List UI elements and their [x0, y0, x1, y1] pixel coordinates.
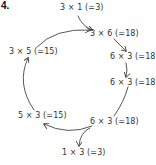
- arrow-lower-right-to-lower-left: [44, 124, 92, 131]
- arrow-right-1-to-right-2: [126, 63, 127, 77]
- node-lower-left: 5 × 3 (=15): [18, 111, 67, 120]
- arrow-right-2-to-lower-right: [114, 87, 128, 116]
- arrow-top-to-upper-right: [78, 16, 92, 30]
- node-top: 3 × 1 (=3): [60, 3, 104, 12]
- node-right-1: 6 × 3 (=18): [110, 52, 156, 61]
- node-bottom: 1 × 3 (=3): [62, 148, 106, 157]
- arrow-upper-right-to-right-1: [114, 39, 126, 51]
- node-right-2: 6 × 3 (=18): [110, 78, 156, 87]
- arrow-upper-left-to-upper-right: [37, 30, 90, 47]
- node-upper-right: 3 × 6 (=18): [90, 29, 139, 38]
- node-upper-left: 3 × 5 (=15): [9, 47, 58, 56]
- node-lower-right: 6 × 3 (=18): [90, 117, 139, 126]
- arrow-lower-right-to-bottom: [79, 128, 90, 146]
- arrow-lower-left-to-upper-left: [23, 58, 34, 110]
- cycle-diagram: 4. 3 × 1 (=3) 3 × 6 (=18) 6 × 3 (=18) 6 …: [0, 0, 156, 165]
